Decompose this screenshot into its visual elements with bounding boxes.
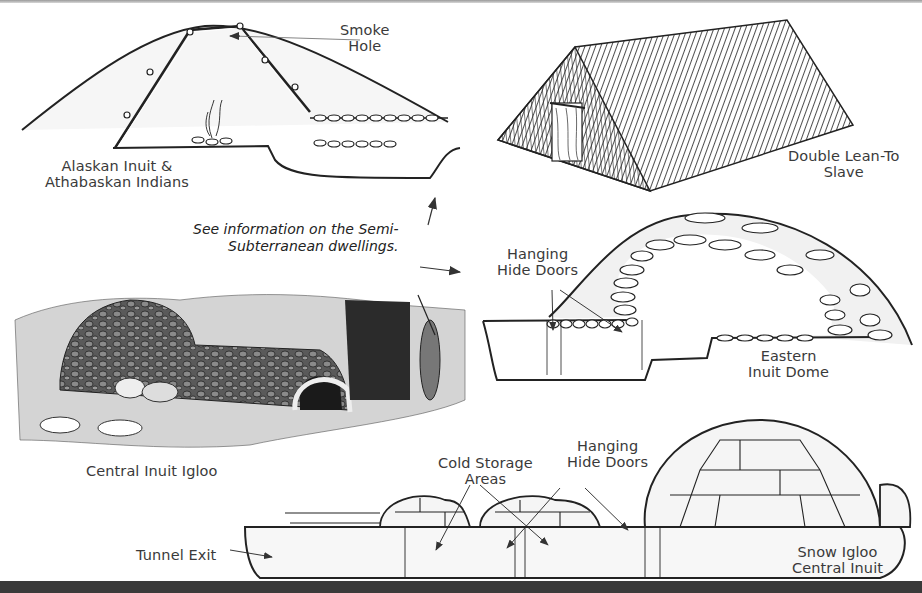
label-line: Slave	[788, 164, 899, 180]
label-line: Inuit Dome	[748, 364, 829, 380]
label-line: Central Inuit	[792, 560, 883, 576]
callout-line: Hanging	[567, 438, 648, 454]
label-line: Tunnel Exit	[136, 547, 216, 563]
central-inuit-igloo-engraving	[15, 295, 465, 448]
tunnel-exit-label: Tunnel Exit	[136, 547, 216, 563]
callout-line: Cold Storage	[438, 455, 533, 471]
callout-line: Hanging	[497, 246, 578, 262]
bottom-border-bar	[0, 581, 922, 593]
label-line: Eastern	[748, 348, 829, 364]
callout-line: Areas	[438, 471, 533, 487]
central-inuit-igloo-label: Central Inuit Igloo	[86, 463, 218, 479]
eastern-inuit-dome-drawing	[483, 213, 912, 382]
double-lean-to-label: Double Lean-To Slave	[788, 148, 899, 180]
note-line: Subterranean dwellings.	[193, 238, 398, 255]
callout-line: Hide Doors	[567, 454, 648, 470]
label-line: Central Inuit Igloo	[86, 463, 218, 479]
illustration-canvas	[0, 0, 922, 593]
cold-storage-callout: Cold Storage Areas	[438, 455, 533, 487]
snow-igloo-label: Snow Igloo Central Inuit	[792, 544, 883, 576]
callout-line: Hide Doors	[497, 262, 578, 278]
callout-line: Hole	[340, 38, 390, 54]
note-line: See information on the Semi-	[193, 221, 398, 238]
label-line: Athabaskan Indians	[45, 174, 189, 190]
note-arrows	[420, 198, 460, 272]
label-line: Double Lean-To	[788, 148, 899, 164]
alaskan-inuit-label: Alaskan Inuit & Athabaskan Indians	[45, 158, 189, 190]
hanging-hide-doors-callout-central: Hanging Hide Doors	[567, 438, 648, 470]
semi-subterranean-house-drawing	[22, 23, 460, 178]
callout-line: Smoke	[340, 22, 390, 38]
label-line: Alaskan Inuit &	[45, 158, 189, 174]
smoke-hole-callout: Smoke Hole	[340, 22, 390, 54]
label-line: Snow Igloo	[792, 544, 883, 560]
hanging-hide-doors-callout-east: Hanging Hide Doors	[497, 246, 578, 278]
semi-subterranean-note: See information on the Semi- Subterranea…	[193, 221, 398, 255]
eastern-inuit-dome-label: Eastern Inuit Dome	[748, 348, 829, 380]
